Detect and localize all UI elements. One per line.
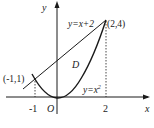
- origin-label: O: [47, 103, 54, 114]
- y-axis-arrow-icon: [55, 1, 60, 8]
- parabola-equation-label: y=x2: [82, 84, 101, 95]
- x-axis-arrow-icon: [143, 95, 150, 100]
- diagram-canvas: y x O -1 2 y=x+2 (2,4) (-1,1) D y=x2: [0, 0, 154, 128]
- line-equation-label: y=x+2: [67, 19, 94, 29]
- region-label: D: [71, 59, 80, 70]
- x-axis-label: x: [144, 103, 150, 114]
- point-label-2-4: (2,4): [107, 19, 125, 30]
- tick-label-2: 2: [103, 103, 108, 114]
- point-label-neg1-1: (-1,1): [3, 74, 24, 85]
- y-axis-label: y: [41, 2, 47, 13]
- tick-label-neg1: -1: [29, 103, 37, 114]
